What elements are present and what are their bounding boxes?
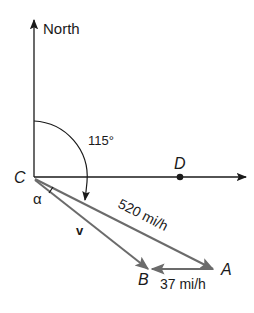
vector-v: [35, 180, 148, 269]
point-d-dot: [177, 174, 184, 181]
point-c-label: C: [14, 169, 26, 186]
point-b-label: B: [138, 271, 149, 288]
point-d-label: D: [174, 155, 186, 172]
ab-speed-label: 37 mi/h: [160, 276, 206, 292]
angle-arc-115: [34, 121, 87, 200]
ca-speed-label: 520 mi/h: [116, 195, 171, 233]
vector-ca: [35, 179, 213, 269]
alpha-label: α: [33, 190, 42, 207]
angle-label: 115°: [88, 133, 114, 148]
north-label: North: [43, 20, 80, 37]
point-a-label: A: [220, 261, 232, 278]
v-label: v: [76, 223, 84, 238]
vector-diagram: North 115° D C 520 mi/h v 37 mi/h A B α: [0, 0, 254, 313]
